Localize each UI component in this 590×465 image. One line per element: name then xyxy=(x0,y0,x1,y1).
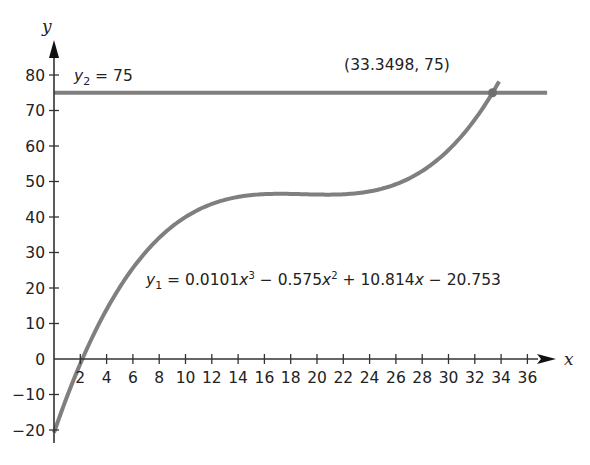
y-tick-label: −10 xyxy=(12,386,45,404)
y2-equation-label: y2 = 75 xyxy=(73,67,133,88)
x-tick-label: 4 xyxy=(102,369,112,387)
x-tick-label: 2 xyxy=(75,369,85,387)
x-tick-label: 14 xyxy=(228,369,248,387)
x-tick-label: 30 xyxy=(439,369,459,387)
x-tick-label: 18 xyxy=(281,369,301,387)
x-tick-label: 34 xyxy=(491,369,511,387)
intersection-point-marker xyxy=(488,88,497,97)
x-tick-label: 8 xyxy=(154,369,164,387)
x-tick-label: 24 xyxy=(360,369,380,387)
x-tick-label: 28 xyxy=(412,369,432,387)
x-tick-label: 6 xyxy=(128,369,138,387)
x-tick-label: 12 xyxy=(202,369,222,387)
y-tick-label: 0 xyxy=(35,351,45,369)
y-tick-label: 40 xyxy=(25,209,45,227)
x-axis-arrow-icon xyxy=(537,354,556,364)
y-axis-label: y xyxy=(41,16,52,36)
y1-curve xyxy=(54,81,499,432)
x-tick-label: 22 xyxy=(333,369,353,387)
x-tick-label: 10 xyxy=(176,369,196,387)
cubic-chart: yx24681012141618202224262830323436−20−10… xyxy=(0,0,590,465)
x-tick-label: 32 xyxy=(465,369,485,387)
y-tick-label: 30 xyxy=(25,244,45,262)
x-tick-label: 16 xyxy=(255,369,275,387)
intersection-label: (33.3498, 75) xyxy=(344,56,450,74)
x-tick-label: 26 xyxy=(386,369,406,387)
y1-equation-label: y1 = 0.0101x3 − 0.575x2 + 10.814x − 20.7… xyxy=(145,270,501,292)
y-tick-label: 50 xyxy=(25,173,45,191)
y-tick-label: 60 xyxy=(25,138,45,156)
y-tick-label: −20 xyxy=(12,422,45,440)
y-tick-label: 70 xyxy=(25,102,45,120)
x-tick-label: 36 xyxy=(518,369,538,387)
y-tick-label: 20 xyxy=(25,280,45,298)
x-tick-label: 20 xyxy=(307,369,327,387)
y-tick-label: 10 xyxy=(25,315,45,333)
y-axis-arrow-icon xyxy=(49,40,59,58)
y-tick-label: 80 xyxy=(25,67,45,85)
x-axis-label: x xyxy=(564,349,574,369)
chart-canvas: yx24681012141618202224262830323436−20−10… xyxy=(0,0,590,465)
